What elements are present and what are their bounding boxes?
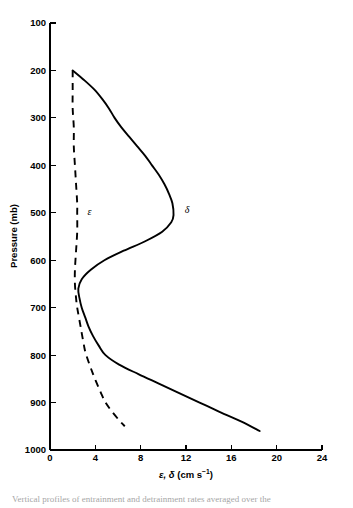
- curve-delta: [73, 70, 260, 431]
- x-tick-label-12: 12: [181, 452, 192, 463]
- figure-container: 1002003004005006007008009001000 04812162…: [0, 0, 353, 508]
- y-tick-label-700: 700: [30, 302, 46, 313]
- x-tick-label-4: 4: [93, 452, 99, 463]
- y-tick-label-100: 100: [30, 17, 46, 28]
- y-axis-title: Pressure (mb): [8, 204, 19, 268]
- y-axis-ticks: [50, 23, 56, 450]
- y-tick-label-600: 600: [30, 255, 46, 266]
- x-tick-label-24: 24: [317, 452, 328, 463]
- caption-fragment: Vertical profiles of entrainment and det…: [12, 496, 342, 504]
- y-tick-label-300: 300: [30, 112, 46, 123]
- y-tick-label-1000: 1000: [25, 444, 46, 455]
- y-axis-tick-labels: 1002003004005006007008009001000: [25, 17, 46, 455]
- x-tick-label-8: 8: [138, 452, 143, 463]
- x-tick-label-20: 20: [271, 452, 282, 463]
- curve-label-epsilon: ε: [87, 206, 91, 217]
- x-axis-title: ε, δ (cm s−1): [159, 468, 213, 480]
- caption-strip: Vertical profiles of entrainment and det…: [0, 496, 353, 508]
- x-axis-tick-labels: 04812162024: [47, 452, 328, 463]
- curve-epsilon: [73, 70, 125, 426]
- x-axis-title-epsilon: ε,: [159, 469, 169, 480]
- x-tick-label-16: 16: [226, 452, 237, 463]
- x-axis-ticks: [95, 445, 322, 451]
- x-axis-title-close: ): [210, 469, 213, 480]
- y-tick-label-800: 800: [30, 350, 46, 361]
- y-tick-label-200: 200: [30, 65, 46, 76]
- x-axis-title-unit: (cm s: [175, 469, 202, 480]
- y-tick-label-900: 900: [30, 397, 46, 408]
- pressure-profile-chart: 1002003004005006007008009001000 04812162…: [0, 0, 353, 508]
- x-tick-label-0: 0: [47, 452, 52, 463]
- y-tick-label-400: 400: [30, 160, 46, 171]
- y-tick-label-500: 500: [30, 207, 46, 218]
- curve-label-delta: δ: [185, 204, 190, 215]
